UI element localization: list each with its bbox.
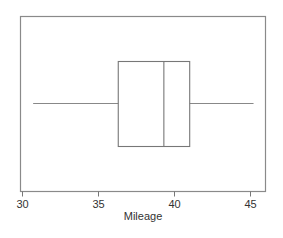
x-tick-label: 35 (92, 198, 104, 210)
boxplot-chart: 30354045 Mileage (0, 0, 283, 238)
x-tick-label: 45 (244, 198, 256, 210)
x-axis: 30354045 (16, 192, 256, 211)
x-axis-label: Mileage (124, 210, 163, 222)
x-tick-label: 30 (16, 198, 28, 210)
x-tick-label: 40 (168, 198, 180, 210)
box-plot (33, 62, 253, 147)
iqr-box (118, 62, 189, 147)
